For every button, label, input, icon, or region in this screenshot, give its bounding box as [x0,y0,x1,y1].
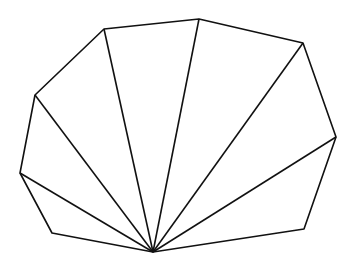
diagram-canvas [0,0,339,263]
fan-triangulated-polygon [0,0,339,263]
diagonal-line [153,43,303,252]
diagonal-line [153,19,199,252]
diagonal-line [153,137,336,252]
